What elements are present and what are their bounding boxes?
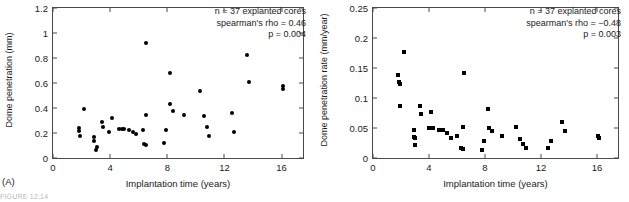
panel-a-data-point bbox=[144, 41, 148, 45]
panel-b-data-point bbox=[514, 125, 518, 129]
panel-b-stat-rho: spearman's rho = −0.48 bbox=[526, 18, 621, 30]
panel-b-y-tick-mark bbox=[373, 68, 377, 69]
panel-a-x-tick-label: 0 bbox=[50, 158, 55, 173]
panel-b-x-tick-mark bbox=[373, 154, 374, 158]
panel-a-x-tick-mark bbox=[224, 154, 225, 158]
panel-b-x-tick-mark bbox=[429, 154, 430, 158]
panel-b-data-point bbox=[461, 147, 465, 151]
panel-a-data-point bbox=[141, 128, 145, 132]
panel-a-y-tick-mark bbox=[299, 58, 303, 59]
panel-b-stat-p: p = 0.003 bbox=[526, 29, 621, 41]
panel-a-x-tick-mark bbox=[167, 8, 168, 12]
panel-b-y-tick-mark bbox=[373, 98, 377, 99]
panel-a-data-point bbox=[78, 134, 82, 138]
panel-b-data-point bbox=[445, 131, 449, 135]
panel-b-y-tick-mark bbox=[373, 8, 377, 9]
panel-a-data-point bbox=[207, 134, 211, 138]
panel-a-data-point bbox=[168, 71, 172, 75]
panel-b-data-point bbox=[490, 129, 494, 133]
panel-a-stat-n: n = 37 explanted cores bbox=[215, 6, 306, 18]
panel-a-y-tick-label: 0.8 bbox=[35, 53, 53, 64]
panel-a-y-tick-mark bbox=[53, 83, 57, 84]
panel-b-y-tick-label: 0.1 bbox=[355, 93, 373, 104]
panel-a-data-point bbox=[77, 129, 81, 133]
panel-b-data-point bbox=[482, 139, 486, 143]
panel-a-data-point bbox=[245, 53, 249, 57]
panel-a-data-point bbox=[134, 132, 138, 136]
panel-a-data-point bbox=[205, 125, 209, 129]
panel-a-x-tick-mark bbox=[167, 154, 168, 158]
panel-b-data-point bbox=[500, 134, 504, 138]
panel-b-x-tick-label: 12 bbox=[536, 158, 547, 173]
panel-a-x-tick-label: 12 bbox=[219, 158, 230, 173]
panel-a-data-point bbox=[202, 114, 206, 118]
panel-a-x-axis-label: Implantation time (years) bbox=[52, 178, 304, 189]
panel-b-data-point bbox=[549, 139, 553, 143]
panel-b: Dome penetration rate (mm/year) 00.050.1… bbox=[315, 0, 629, 202]
panel-b-data-point bbox=[518, 137, 522, 141]
panel-a-tag: (A) bbox=[2, 176, 15, 187]
panel-b-data-point bbox=[419, 112, 423, 116]
panel-b-data-point bbox=[462, 71, 466, 75]
panel-a-stats-annotation: n = 37 explanted cores spearman's rho = … bbox=[215, 6, 306, 41]
panel-b-data-point bbox=[455, 134, 459, 138]
panel-b-x-tick-mark bbox=[597, 154, 598, 158]
panel-a-y-tick-mark bbox=[299, 133, 303, 134]
panel-a-y-tick-mark bbox=[53, 33, 57, 34]
panel-a-x-tick-mark bbox=[110, 154, 111, 158]
panel-b-data-point bbox=[413, 136, 417, 140]
panel-b-y-tick-label: 0.05 bbox=[350, 123, 374, 134]
panel-a-data-point bbox=[95, 145, 99, 149]
panel-a-y-tick-mark bbox=[299, 83, 303, 84]
panel-a-data-point bbox=[171, 109, 175, 113]
figure-container: Dome penetration (mm) 00.20.40.60.811.20… bbox=[0, 0, 629, 202]
panel-b-data-point bbox=[402, 50, 406, 54]
panel-a-data-point bbox=[110, 116, 114, 120]
panel-b-y-axis-label: Dome penetration rate (mm/year) bbox=[317, 0, 331, 160]
panel-a-y-tick-label: 1 bbox=[43, 28, 53, 39]
panel-b-data-point bbox=[486, 107, 490, 111]
panel-b-data-point bbox=[413, 143, 417, 147]
panel-a-data-point bbox=[168, 102, 172, 106]
panel-a-data-point bbox=[164, 128, 168, 132]
panel-b-y-tick-mark bbox=[373, 38, 377, 39]
panel-a-data-point bbox=[247, 80, 251, 84]
panel-b-y-tick-label: 0.2 bbox=[355, 33, 373, 44]
panel-b-data-point bbox=[597, 136, 601, 140]
panel-a-x-tick-label: 8 bbox=[165, 158, 170, 173]
panel-b-y-tick-mark bbox=[614, 98, 618, 99]
panel-b-x-tick-label: 0 bbox=[370, 158, 375, 173]
panel-b-data-point bbox=[449, 136, 453, 140]
panel-a-data-point bbox=[101, 125, 105, 129]
panel-a-stat-p: p = 0.004 bbox=[215, 29, 306, 41]
panel-a-data-point bbox=[281, 87, 285, 91]
panel-b-data-point bbox=[418, 104, 422, 108]
panel-b-y-tick-label: 0.15 bbox=[350, 63, 374, 74]
panel-a-y-tick-label: 1.2 bbox=[35, 3, 53, 14]
panel-a-y-tick-mark bbox=[299, 108, 303, 109]
panel-a-data-point bbox=[107, 130, 111, 134]
panel-a-data-point bbox=[144, 113, 148, 117]
panel-b-x-tick-label: 4 bbox=[426, 158, 431, 173]
panel-a-y-tick-label: 0.4 bbox=[35, 103, 53, 114]
panel-a-y-tick-mark bbox=[53, 108, 57, 109]
panel-a-data-point bbox=[162, 141, 166, 145]
panel-a-x-tick-mark bbox=[281, 154, 282, 158]
panel-b-x-tick-mark bbox=[485, 154, 486, 158]
panel-b-data-point bbox=[398, 82, 402, 86]
panel-a-x-tick-mark bbox=[53, 154, 54, 158]
panel-a-data-point bbox=[182, 113, 186, 117]
panel-a-y-tick-mark bbox=[299, 158, 303, 159]
panel-b-data-point bbox=[546, 146, 550, 150]
panel-b-data-point bbox=[480, 148, 484, 152]
panel-a: Dome penetration (mm) 00.20.40.60.811.20… bbox=[0, 0, 314, 202]
panel-a-data-point bbox=[82, 107, 86, 111]
panel-b-data-point bbox=[429, 110, 433, 114]
panel-b-data-point bbox=[560, 120, 564, 124]
panel-b-data-point bbox=[412, 128, 416, 132]
panel-a-y-tick-mark bbox=[53, 133, 57, 134]
panel-a-x-tick-mark bbox=[110, 8, 111, 12]
panel-a-x-tick-mark bbox=[53, 8, 54, 12]
panel-a-y-tick-label: 0.2 bbox=[35, 128, 53, 139]
panel-a-data-point bbox=[144, 143, 148, 147]
